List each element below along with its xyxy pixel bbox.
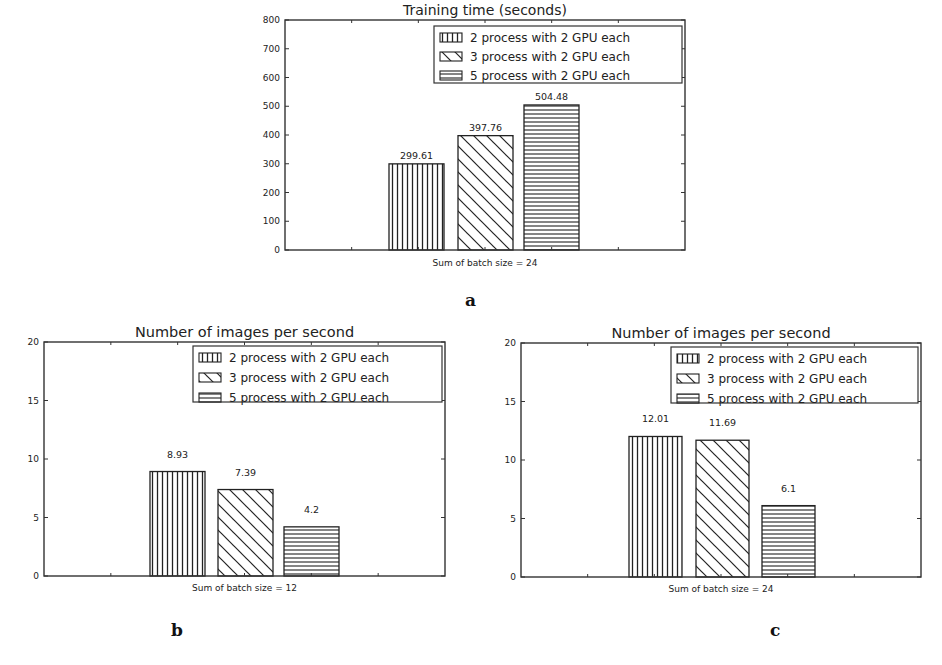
legend-label: 2 process with 2 GPU each bbox=[707, 352, 867, 366]
chart-title: Number of images per second bbox=[135, 324, 354, 340]
legend-swatch-vertical bbox=[199, 353, 221, 362]
legend-label: 2 process with 2 GPU each bbox=[470, 31, 630, 45]
panel-label-a: a bbox=[465, 290, 476, 310]
bar-vertical bbox=[629, 436, 682, 577]
y-tick-label: 400 bbox=[263, 130, 280, 140]
legend-label: 3 process with 2 GPU each bbox=[470, 50, 630, 64]
bar-value-label: 8.93 bbox=[167, 449, 188, 460]
y-tick-label: 15 bbox=[505, 397, 516, 407]
chart-c-group: Number of images per second12.0111.696.1… bbox=[505, 325, 921, 594]
chart-b-group: Number of images per second8.937.394.205… bbox=[28, 324, 445, 593]
y-tick-label: 700 bbox=[263, 44, 280, 54]
bar-diagonal bbox=[696, 440, 749, 577]
legend-label: 5 process with 2 GPU each bbox=[707, 392, 867, 406]
x-axis-label: Sum of batch size = 24 bbox=[432, 258, 537, 268]
bar-horizontal bbox=[762, 506, 815, 577]
y-tick-label: 10 bbox=[505, 455, 517, 465]
legend-label: 3 process with 2 GPU each bbox=[229, 371, 389, 385]
chart-title: Training time (seconds) bbox=[402, 2, 567, 18]
panel-label-c: c bbox=[770, 620, 780, 640]
legend: 2 process with 2 GPU each3 process with … bbox=[434, 26, 682, 83]
legend-label: 5 process with 2 GPU each bbox=[470, 69, 630, 83]
bar-value-label: 397.76 bbox=[469, 122, 502, 133]
x-axis-label: Sum of batch size = 12 bbox=[192, 583, 297, 593]
bar-value-label: 12.01 bbox=[642, 413, 669, 424]
y-tick-label: 10 bbox=[28, 454, 40, 464]
y-tick-label: 20 bbox=[505, 338, 517, 348]
legend-swatch-diagonal bbox=[677, 374, 699, 383]
legend-swatch-horizontal bbox=[199, 393, 221, 402]
panel-label-b: b bbox=[171, 620, 183, 640]
y-tick-label: 300 bbox=[263, 159, 280, 169]
chart-title: Number of images per second bbox=[611, 325, 830, 341]
bar-horizontal bbox=[524, 105, 579, 250]
x-axis-label: Sum of batch size = 24 bbox=[668, 584, 773, 594]
legend-label: 3 process with 2 GPU each bbox=[707, 372, 867, 386]
y-tick-label: 200 bbox=[263, 188, 280, 198]
bar-vertical bbox=[389, 164, 444, 250]
legend-swatch-vertical bbox=[440, 33, 462, 42]
chart-a: Training time (seconds)299.61397.76504.4… bbox=[0, 0, 942, 665]
legend-swatch-horizontal bbox=[677, 394, 699, 403]
y-tick-label: 500 bbox=[263, 101, 280, 111]
bar-diagonal bbox=[458, 136, 513, 250]
y-tick-label: 0 bbox=[274, 245, 280, 255]
y-tick-label: 600 bbox=[263, 73, 280, 83]
legend: 2 process with 2 GPU each3 process with … bbox=[671, 347, 918, 406]
y-tick-label: 800 bbox=[263, 15, 280, 25]
legend-swatch-diagonal bbox=[440, 52, 462, 61]
bar-value-label: 4.2 bbox=[304, 504, 319, 515]
legend-swatch-horizontal bbox=[440, 71, 462, 80]
bar-value-label: 7.39 bbox=[235, 467, 256, 478]
y-tick-label: 5 bbox=[33, 513, 39, 523]
y-tick-label: 0 bbox=[510, 572, 516, 582]
y-tick-label: 0 bbox=[33, 571, 39, 581]
chart-a-group: Training time (seconds)299.61397.76504.4… bbox=[263, 2, 685, 268]
bar-diagonal bbox=[218, 490, 273, 576]
legend: 2 process with 2 GPU each3 process with … bbox=[193, 346, 442, 405]
legend-label: 2 process with 2 GPU each bbox=[229, 351, 389, 365]
bar-value-label: 6.1 bbox=[781, 483, 796, 494]
y-tick-label: 20 bbox=[28, 337, 40, 347]
bar-value-label: 299.61 bbox=[400, 150, 433, 161]
bar-value-label: 11.69 bbox=[709, 417, 736, 428]
bar-value-label: 504.48 bbox=[535, 91, 568, 102]
legend-swatch-diagonal bbox=[199, 373, 221, 382]
y-tick-label: 5 bbox=[510, 514, 516, 524]
bar-horizontal bbox=[284, 527, 339, 576]
y-tick-label: 100 bbox=[263, 216, 280, 226]
legend-swatch-vertical bbox=[677, 354, 699, 363]
y-tick-label: 15 bbox=[28, 396, 39, 406]
bar-vertical bbox=[150, 472, 205, 576]
legend-label: 5 process with 2 GPU each bbox=[229, 391, 389, 405]
